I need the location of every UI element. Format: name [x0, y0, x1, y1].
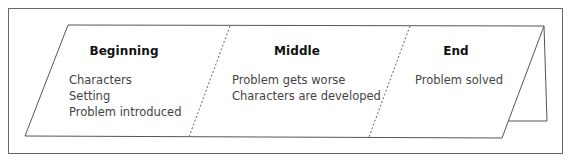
- section-list-middle: Problem gets worse Characters are develo…: [232, 72, 381, 104]
- list-item: Problem introduced: [69, 104, 181, 120]
- list-item: Characters: [69, 72, 181, 88]
- list-item: Problem solved: [415, 72, 503, 88]
- section-heading-middle: Middle: [274, 44, 320, 58]
- section-list-end: Problem solved: [415, 72, 503, 88]
- section-heading-beginning: Beginning: [89, 44, 158, 58]
- story-structure-diagram: Beginning Characters Setting Problem int…: [0, 0, 569, 161]
- list-item: Characters are developed: [232, 88, 381, 104]
- section-heading-end: End: [443, 44, 469, 58]
- section-list-beginning: Characters Setting Problem introduced: [69, 72, 181, 120]
- list-item: Problem gets worse: [232, 72, 381, 88]
- list-item: Setting: [69, 88, 181, 104]
